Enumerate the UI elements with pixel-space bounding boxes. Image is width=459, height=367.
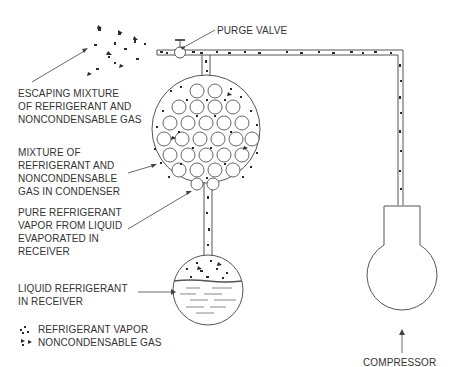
label-line: OF REFRIGERANT AND [18,100,142,113]
label-escaping-mixture: ESCAPING MIXTURE OF REFRIGERANT AND NONC… [18,87,142,126]
label-line: GAS IN CONDENSER [18,185,120,198]
label-purge-valve: PURGE VALVE [217,24,287,37]
label-line: REFRIGERANT AND [18,159,120,172]
label-line: RECEIVER [18,245,122,258]
legend-noncondensable-gas: NONCONDENSABLE GAS [38,336,162,349]
liquid-level [174,280,242,282]
label-line: VAPOR FROM LIQUID [18,219,122,232]
label-line: LIQUID REFRIGERANT [18,282,128,295]
label-line: PURE REFRIGERANT [18,206,122,219]
legend-refrigerant-vapor: REFRIGERANT VAPOR [38,323,148,336]
legend-symbols [20,326,32,346]
label-line: IN RECEIVER [18,295,128,308]
label-compressor: COMPRESSOR [363,356,436,367]
label-line: NONCONDENSABLE GAS [18,113,142,126]
label-line: EVAPORATED IN [18,232,122,245]
receiver-shell [173,255,243,325]
label-liquid-refrigerant: LIQUID REFRIGERANT IN RECEIVER [18,282,128,308]
label-pure-refrigerant-vapor: PURE REFRIGERANT VAPOR FROM LIQUID EVAPO… [18,206,122,258]
label-line: NONCONDENSABLE [18,172,120,185]
label-line: MIXTURE OF [18,146,120,159]
label-mixture-in-condenser: MIXTURE OF REFRIGERANT AND NONCONDENSABL… [18,146,120,198]
label-line: ESCAPING MIXTURE [18,87,142,100]
compressor-body [367,206,437,310]
